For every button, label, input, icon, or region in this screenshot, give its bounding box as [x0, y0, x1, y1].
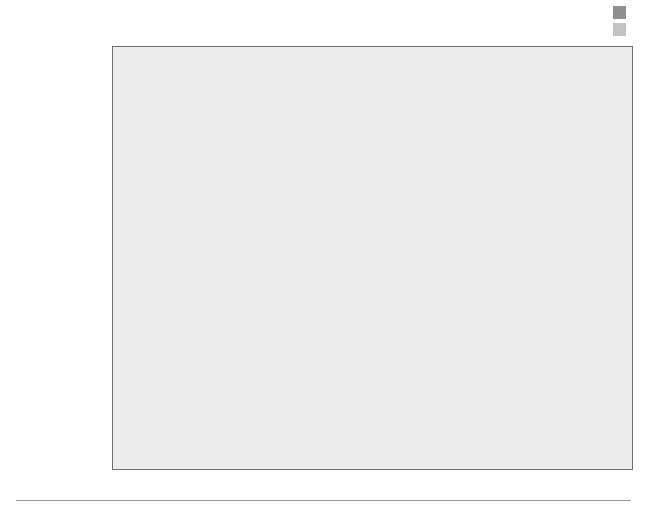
- chart-plot-area: [112, 46, 633, 470]
- bottom-rule-divider: [16, 500, 631, 501]
- chart-legend: [613, 6, 633, 36]
- legend-swatch-males-icon: [613, 6, 626, 19]
- category-axis-labels: [0, 46, 108, 470]
- x-axis: [112, 470, 633, 496]
- legend-item-females: [613, 23, 633, 36]
- legend-item-males: [613, 6, 633, 19]
- legend-swatch-females-icon: [613, 23, 626, 36]
